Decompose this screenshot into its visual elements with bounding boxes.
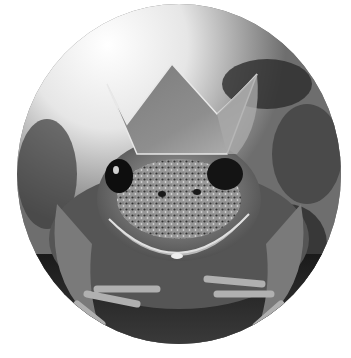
frog-photo: Black-and-white circular photo of a frog… bbox=[17, 4, 341, 344]
right-eye bbox=[207, 158, 243, 190]
frog-illustration bbox=[17, 4, 341, 344]
left-eye bbox=[105, 159, 133, 193]
